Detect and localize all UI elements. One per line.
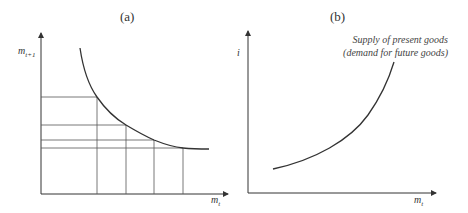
panel-b-x-label-sub: t <box>421 200 423 208</box>
panel-a-x-label-sub: t <box>218 200 220 208</box>
panel-a-title: (a) <box>120 9 134 25</box>
panel-b-curve-annotation: Supply of present goods (demand for futu… <box>338 33 448 59</box>
annotation-line-2: (demand for future goods) <box>338 46 448 59</box>
panel-a-y-axis-label: mt+1 <box>18 45 35 59</box>
panel-b-y-axis-label: i <box>237 47 240 58</box>
annotation-line-1: Supply of present goods <box>338 33 448 46</box>
panel-b-supply-curve <box>273 62 394 169</box>
panel-a-y-label-sub: t+1 <box>25 51 35 59</box>
panel-a-x-axis-label: mt <box>211 194 220 208</box>
panel-a-grid-lines <box>41 97 183 194</box>
panel-b-title: (b) <box>330 9 345 25</box>
panel-a-curve <box>80 48 209 149</box>
panel-a <box>41 33 228 194</box>
panel-b-x-axis-label: mt <box>414 194 423 208</box>
figure-canvas <box>0 0 468 213</box>
